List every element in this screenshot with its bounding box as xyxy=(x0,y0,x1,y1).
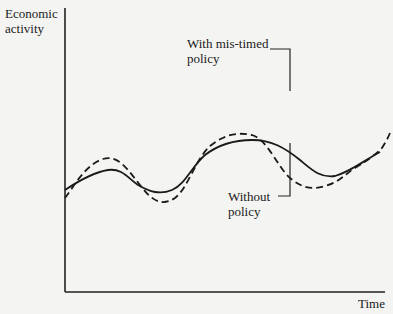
annotation-mistimed-line2: policy xyxy=(187,51,268,66)
annotation-mistimed-policy: With mis-timed policy xyxy=(187,36,268,66)
series-without-policy xyxy=(65,140,380,192)
annotation-without-line2: policy xyxy=(228,204,270,219)
annotation-without-policy: Without policy xyxy=(228,189,270,219)
annotation-mistimed-line1: With mis-timed xyxy=(187,36,268,51)
leader-line-mistimed xyxy=(270,49,290,91)
annotation-without-line1: Without xyxy=(228,189,270,204)
x-axis-label: Time xyxy=(358,296,385,312)
